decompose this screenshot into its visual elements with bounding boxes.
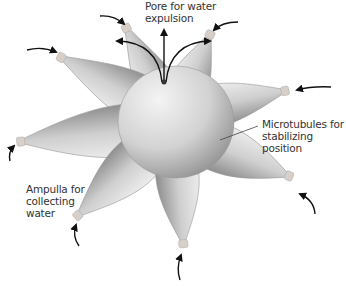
label-ampulla-line1: Ampulla for — [26, 183, 85, 195]
arrow-left-icon — [10, 146, 15, 161]
label-microtubules: Microtubules for stabilizing position — [262, 118, 346, 154]
arrow-top-left-icon — [100, 16, 124, 24]
arrow-lower-left-icon — [75, 225, 79, 246]
label-ampulla: Ampulla for collecting water — [26, 183, 85, 219]
label-pore-line2: expulsion — [145, 12, 216, 24]
arrow-bottom-icon — [178, 255, 181, 280]
arrow-top-right-icon — [214, 22, 238, 30]
label-microtubules-line2: stabilizing position — [262, 130, 346, 154]
label-pore: Pore for water expulsion — [145, 0, 216, 24]
label-microtubules-line1: Microtubules for — [262, 118, 346, 130]
label-ampulla-line2: collecting — [26, 195, 85, 207]
label-pore-line1: Pore for water — [145, 0, 216, 12]
arrow-upper-left-icon — [27, 48, 56, 52]
arrow-lower-right-icon — [300, 194, 315, 214]
label-ampulla-line3: water — [26, 207, 85, 219]
arrow-right-icon — [297, 87, 331, 90]
vacuole-sphere — [118, 66, 234, 178]
pore — [162, 80, 167, 85]
